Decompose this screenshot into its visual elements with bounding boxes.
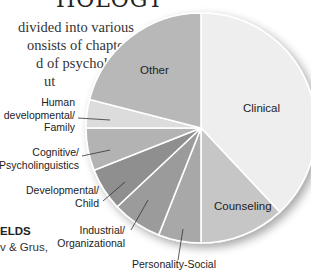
slice-label-industrial: Industrial/ Organizational	[57, 224, 125, 249]
slice-label-cognitive: Cognitive/ Psycholinguistics	[0, 146, 79, 171]
label-line: developmental/	[4, 109, 75, 122]
label-line: Industrial/	[57, 224, 125, 237]
label-line: Developmental/	[26, 184, 99, 197]
label-line: Organizational	[57, 237, 125, 250]
pie-chart	[0, 0, 311, 271]
slice-label-developmental: Developmental/ Child	[26, 184, 99, 209]
label-line: Cognitive/	[0, 146, 79, 159]
slice-label-other: Other	[140, 64, 169, 77]
pie-slices	[86, 13, 311, 243]
slice-label-human: Human developmental/ Family	[4, 96, 75, 134]
label-line: Family	[4, 121, 75, 134]
label-line: Human	[4, 96, 75, 109]
label-line: Child	[26, 197, 99, 210]
slice-label-personality: Personality-Social	[132, 258, 216, 271]
label-line: Psycholinguistics	[0, 159, 79, 172]
slice-label-counseling: Counseling	[214, 200, 272, 213]
slice-label-clinical: Clinical	[243, 102, 280, 115]
